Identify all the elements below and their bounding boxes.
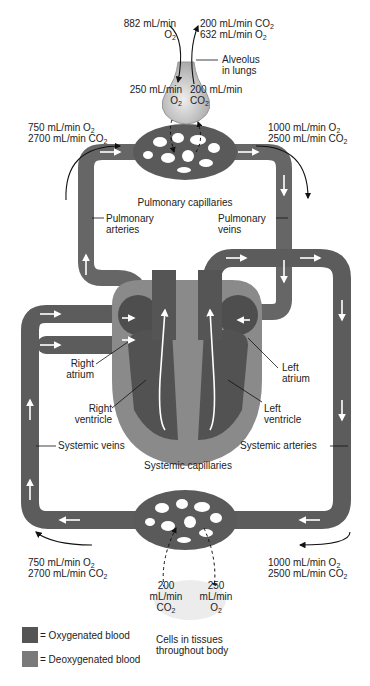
value: 2700 mL/min CO	[28, 568, 104, 579]
line1: 200	[158, 580, 175, 591]
line2: mL/min	[150, 591, 183, 602]
line1: Right	[89, 403, 112, 414]
circulation-diagram	[0, 0, 370, 686]
value: 200 mL/min CO	[200, 18, 270, 29]
sub: 2	[205, 100, 209, 107]
value: 632 mL/min O	[200, 29, 263, 40]
pulmonary-in-values: 750 mL/min O2 2700 mL/min CO2	[28, 122, 108, 144]
line2: in lungs	[222, 65, 256, 76]
sub: 2	[172, 607, 176, 614]
line1: Left	[282, 362, 299, 373]
sub: 2	[270, 23, 274, 30]
line2: ventricle	[75, 414, 112, 425]
line2: arteries	[106, 224, 139, 235]
tissue-co2-label: 200 mL/min CO2	[148, 580, 184, 613]
pulmonary-arteries-label: Pulmonary arteries	[106, 213, 154, 235]
systemic-capillaries-label: Systemic capillaries	[130, 460, 246, 471]
systemic-arteries-label: Systemic arteries	[240, 440, 317, 451]
line1: Cells in tissues	[156, 634, 223, 645]
line1: Pulmonary	[106, 213, 154, 224]
line2: ventricle	[264, 414, 301, 425]
lung-out: 200 mL/min CO2 632 mL/min O2	[200, 18, 274, 40]
line1: Left	[264, 403, 281, 414]
gas: CO	[157, 602, 172, 613]
pulmonary-veins-label: Pulmonary veins	[218, 213, 266, 235]
line2: mL/min	[200, 591, 233, 602]
line1: Pulmonary	[218, 213, 266, 224]
sub: 2	[344, 138, 348, 145]
sub: 2	[178, 100, 182, 107]
systemic-capillary-bed	[133, 490, 237, 550]
line2: atrium	[66, 369, 94, 380]
systemic-in-values: 1000 mL/min O2 2500 mL/min CO2	[268, 557, 348, 579]
value: 1000 mL/min O	[268, 557, 336, 568]
systemic-veins-label: Systemic veins	[58, 440, 125, 451]
value: 2500 mL/min CO	[268, 568, 344, 579]
value: 750 mL/min O	[28, 122, 91, 133]
value: 1000 mL/min O	[268, 122, 336, 133]
gas: O	[164, 29, 172, 40]
line1: Right	[71, 358, 94, 369]
legend-deoxygenated: = Deoxygenated blood	[40, 654, 140, 665]
tissues-label: Cells in tissues throughout body	[156, 634, 228, 656]
pulmonary-out-values: 1000 mL/min O2 2500 mL/min CO2	[268, 122, 348, 144]
left-ventricle-label: Left ventricle	[264, 403, 301, 425]
sub: 2	[172, 34, 176, 41]
right-atrium-label: Right atrium	[50, 358, 94, 380]
tissue-o2-label: 250 mL/min O2	[198, 580, 234, 613]
line1: Alveolus	[222, 54, 260, 65]
heart	[112, 270, 262, 466]
value: 200 mL/min	[190, 84, 242, 95]
pulmonary-capillary-bed	[133, 124, 237, 180]
gas: O	[170, 95, 178, 106]
gas: O	[210, 602, 218, 613]
line2: throughout body	[156, 645, 228, 656]
alveolus-label: Alveolus in lungs	[222, 54, 260, 76]
left-atrium-label: Left atrium	[282, 362, 310, 384]
sub: 2	[263, 34, 267, 41]
lung-o2-to-blood: 250 mL/min O2	[118, 84, 182, 106]
line2: atrium	[282, 373, 310, 384]
sub: 2	[344, 573, 348, 580]
sub: 2	[104, 573, 108, 580]
value: 2700 mL/min CO	[28, 133, 104, 144]
gas: CO	[190, 95, 205, 106]
value: 882 mL/min	[124, 18, 176, 29]
sub: 2	[218, 607, 222, 614]
line1: 250	[208, 580, 225, 591]
lung-co2-from-blood: 200 mL/min CO2	[190, 84, 242, 106]
oxygenated-swatch	[22, 627, 38, 643]
value: 2500 mL/min CO	[268, 133, 344, 144]
right-ventricle-label: Right ventricle	[60, 403, 112, 425]
deoxygenated-swatch	[22, 651, 38, 667]
value: 250 mL/min	[130, 84, 182, 95]
pulmonary-capillaries-label: Pulmonary capillaries	[130, 197, 240, 208]
legend-oxygenated: = Oxygenated blood	[40, 630, 130, 641]
value: 750 mL/min O	[28, 557, 91, 568]
sub: 2	[104, 138, 108, 145]
lung-o2-in: 882 mL/min O2	[112, 18, 176, 40]
line2: veins	[218, 224, 241, 235]
systemic-out-values: 750 mL/min O2 2700 mL/min CO2	[28, 557, 108, 579]
